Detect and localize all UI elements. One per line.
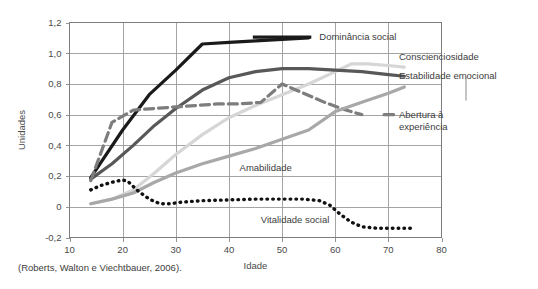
series-annotations: Dominância socialConscienciosidadeEstabi… <box>240 31 497 225</box>
series-label-vitalidade-social: Vitalidade social <box>261 214 329 225</box>
series-line-vitalidade-social <box>91 180 415 228</box>
plot-frame <box>70 23 442 238</box>
y-axis-tick-label: 0 <box>56 201 61 212</box>
y-axis-tick-label: 0,6 <box>48 109 61 120</box>
y-axis-tick-label: 0,2 <box>48 170 61 181</box>
y-axis-tick-label: 1,2 <box>48 17 61 28</box>
series-line-abertura-experi-ncia <box>91 84 362 181</box>
figure-caption: (Roberts, Walton e Viechtbauer, 2006). <box>18 262 182 273</box>
y-axis-tick-label: 0,8 <box>48 78 61 89</box>
series-label-estabilidade-emocional: Estabilidade emocional <box>399 70 497 81</box>
y-axis-tick-label: 1,0 <box>48 48 61 59</box>
figure-container: -0,200,20,40,60,81,01,21020304050607080U… <box>0 0 538 289</box>
gridlines <box>70 23 442 238</box>
x-axis-tick-label: 30 <box>170 244 181 255</box>
axis-labels: -0,200,20,40,60,81,01,21020304050607080U… <box>16 17 447 271</box>
series-label-abertura-experi-ncia-line2: experiência <box>399 121 448 132</box>
series-label-amabilidade: Amabilidade <box>240 162 292 173</box>
x-axis-tick-label: 60 <box>330 244 341 255</box>
personality-traits-line-chart: -0,200,20,40,60,81,01,21020304050607080U… <box>0 0 538 289</box>
plot-area-border <box>70 23 442 238</box>
series-label-domin-ncia-social: Dominância social <box>319 31 396 42</box>
x-axis-tick-label: 70 <box>383 244 394 255</box>
x-axis-tick-label: 50 <box>277 244 288 255</box>
x-axis-tick-label: 20 <box>117 244 128 255</box>
series-label-abertura-experi-ncia: Abertura à <box>399 109 444 120</box>
y-axis-tick-label: 0,4 <box>48 140 61 151</box>
series-label-conscienciosidade: Conscienciosidade <box>399 51 479 62</box>
x-axis-tick-label: 40 <box>224 244 235 255</box>
x-axis-tick-label: 10 <box>64 244 75 255</box>
x-axis-tick-label: 80 <box>436 244 447 255</box>
data-series <box>91 38 415 228</box>
x-axis-title: Idade <box>244 260 268 271</box>
y-axis-title: Unidades <box>16 110 27 150</box>
y-axis-tick-label: -0,2 <box>45 232 61 243</box>
